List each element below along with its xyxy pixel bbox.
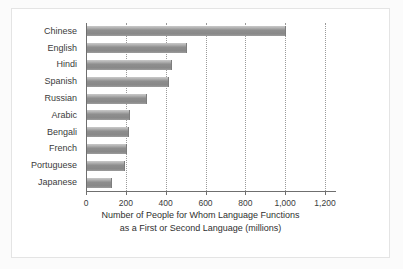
y-axis-label-french: French <box>12 141 82 158</box>
y-axis-label-spanish: Spanish <box>12 73 82 90</box>
y-axis-label-english: English <box>12 40 82 57</box>
tick-label-1200: 1,200 <box>314 198 335 208</box>
tick-mark-0 <box>86 191 87 195</box>
y-axis-label-text: French <box>49 144 77 153</box>
bar-row <box>87 57 325 74</box>
bar-row <box>87 90 325 107</box>
tick-label-0: 0 <box>84 198 89 208</box>
x-axis-title-line-1: Number of People for Whom Language Funct… <box>12 209 389 222</box>
bar-spanish <box>87 77 169 87</box>
bar-hindi <box>87 60 172 70</box>
plot-area: 02004006008001,0001,200 <box>86 23 325 191</box>
tick-label-1000: 1,000 <box>275 198 296 208</box>
bar-japanese <box>87 178 112 188</box>
tick-mark-600 <box>206 191 207 195</box>
bar-russian <box>87 94 147 104</box>
y-axis-label-text: Arabic <box>51 111 77 120</box>
bar-row <box>87 23 325 40</box>
tick-label-200: 200 <box>119 198 133 208</box>
tick-mark-1200 <box>325 191 326 195</box>
y-axis-label-portuguese: Portuguese <box>12 157 82 174</box>
tick-label-800: 800 <box>238 198 252 208</box>
bar-series <box>87 23 325 191</box>
bar-row <box>87 157 325 174</box>
bar-chinese <box>87 26 286 36</box>
tick-label-400: 400 <box>159 198 173 208</box>
bar-portuguese <box>87 161 125 171</box>
x-axis-line <box>86 191 336 192</box>
bar-row <box>87 174 325 191</box>
y-axis-label-russian: Russian <box>12 90 82 107</box>
y-axis-label-hindi: Hindi <box>12 57 82 74</box>
bar-row <box>87 124 325 141</box>
y-axis-label-text: Bengali <box>47 128 77 137</box>
bar-bengali <box>87 127 129 137</box>
y-axis-label-japanese: Japanese <box>12 174 82 191</box>
y-axis-label-bengali: Bengali <box>12 124 82 141</box>
y-axis-label-arabic: Arabic <box>12 107 82 124</box>
y-axis-label-text: Hindi <box>56 60 77 69</box>
bar-french <box>87 144 127 154</box>
y-axis-label-chinese: Chinese <box>12 23 82 40</box>
y-axis-label-text: Russian <box>44 94 77 103</box>
x-axis-title-line-2: as a First or Second Language (millions) <box>12 222 389 235</box>
bar-arabic <box>87 110 130 120</box>
y-axis-label-text: Spanish <box>44 77 77 86</box>
bar-row <box>87 73 325 90</box>
y-axis-label-text: English <box>47 44 77 53</box>
y-axis-label-text: Chinese <box>44 27 77 36</box>
bar-english <box>87 43 187 53</box>
bar-row <box>87 141 325 158</box>
y-axis-label-text: Japanese <box>38 178 77 187</box>
tick-mark-400 <box>166 191 167 195</box>
y-axis-label-text: Portuguese <box>31 161 77 170</box>
tick-label-600: 600 <box>198 198 212 208</box>
bar-row <box>87 40 325 57</box>
tick-mark-200 <box>126 191 127 195</box>
tick-mark-800 <box>245 191 246 195</box>
bar-row <box>87 107 325 124</box>
y-axis-labels: ChineseEnglishHindiSpanishRussianArabicB… <box>12 23 82 191</box>
x-axis-title: Number of People for Whom Language Funct… <box>12 209 389 235</box>
tick-mark-1000 <box>285 191 286 195</box>
gridline-1200 <box>325 23 326 191</box>
chart-figure: ChineseEnglishHindiSpanishRussianArabicB… <box>11 8 390 258</box>
